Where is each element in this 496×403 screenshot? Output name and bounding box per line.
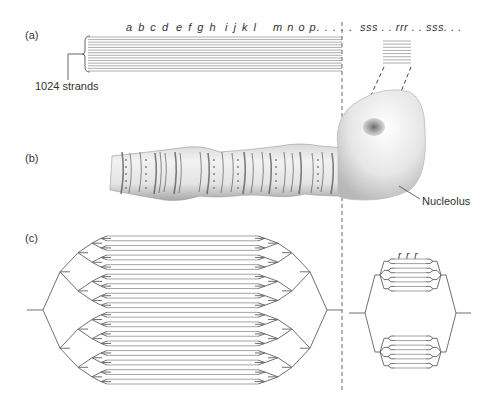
polytene-replication-tree [27,236,342,384]
rdna-strand-inset [383,41,411,63]
rdna-amplification-tree [349,259,471,368]
polytene-strand-bundle [88,37,342,71]
strand-brace [68,36,90,80]
diagram-canvas [0,0,496,403]
nucleolus [337,90,425,200]
polytene-chromosome [110,144,345,201]
